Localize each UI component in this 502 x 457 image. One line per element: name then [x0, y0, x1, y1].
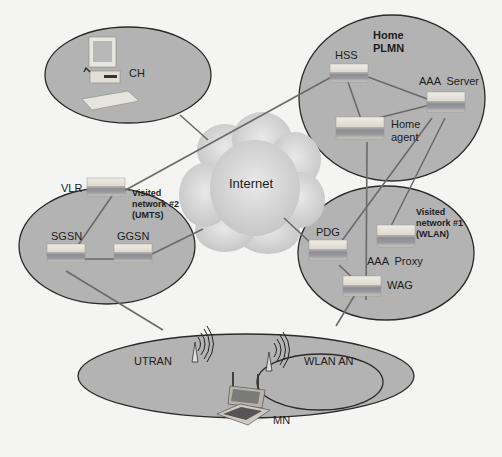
- visited-network-1-label-line3: (WLAN): [416, 229, 449, 239]
- vlr-label: VLR: [61, 182, 82, 194]
- wag-label: WAG: [387, 279, 413, 291]
- sgsn-label: SGSN: [51, 230, 82, 242]
- aaa-proxy-label: AAA Proxy: [367, 255, 423, 267]
- device-aaa-proxy[interactable]: [377, 225, 415, 247]
- device-home-agent[interactable]: [336, 117, 384, 139]
- ch-network: [45, 27, 211, 123]
- visited-network-1-label-line1: Visited: [416, 207, 445, 217]
- ch-label: CH: [129, 67, 145, 79]
- device-ggsn[interactable]: [114, 244, 152, 262]
- internet-label: Internet: [229, 178, 273, 190]
- hss-label: HSS: [335, 49, 358, 61]
- device-pdg[interactable]: [309, 240, 347, 260]
- visited-network-1-label-line2: network #1: [416, 218, 463, 228]
- visited-network-2-label-line3: (UMTS): [132, 210, 164, 220]
- home-plmn-label-line2: PLMN: [373, 42, 404, 54]
- device-sgsn[interactable]: [47, 244, 85, 262]
- home-agent-label-line2: agent: [391, 131, 419, 143]
- device-wag[interactable]: [343, 276, 381, 296]
- aaa-server-label: AAA Server: [419, 75, 479, 87]
- mn-label: MN: [273, 414, 290, 426]
- home-agent-label-line1: Home: [391, 118, 420, 130]
- ggsn-label: GGSN: [117, 230, 149, 242]
- device-vlr[interactable]: [87, 178, 125, 196]
- device-hss[interactable]: [330, 64, 368, 82]
- link-ch-internet: [180, 115, 208, 140]
- visited-network-2-label-line2: network #2: [132, 199, 179, 209]
- visited-network-2-label-line1: Visited: [132, 188, 161, 198]
- home-plmn-label-line1: Home: [373, 29, 404, 41]
- utran-label: UTRAN: [134, 355, 172, 367]
- pdg-label: PDG: [316, 226, 340, 238]
- wlan-an-label: WLAN AN: [304, 355, 354, 367]
- device-aaa-server[interactable]: [427, 92, 465, 112]
